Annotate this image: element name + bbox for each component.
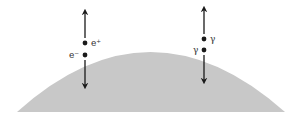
photon-label-upper: γ	[210, 34, 215, 44]
photon-dot-upper	[202, 37, 207, 42]
pair-production-diagram: e⁺ e⁻ γ γ	[0, 0, 302, 119]
horizon-surface	[17, 52, 285, 112]
positron-label: e⁺	[91, 38, 101, 48]
photon-dot-lower	[202, 48, 207, 53]
positron-dot	[83, 41, 88, 46]
electron-dot	[83, 53, 88, 58]
electron-label: e⁻	[69, 50, 79, 60]
photon-label-lower: γ	[193, 45, 198, 55]
